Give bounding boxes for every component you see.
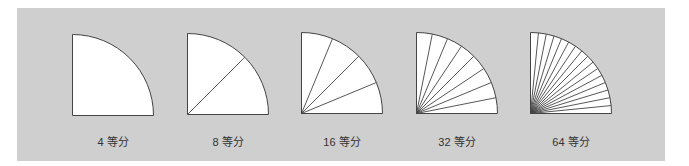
quarter-circle-64 <box>530 32 612 116</box>
quarter-circle-32-graphic <box>416 32 498 116</box>
quarter-circle-32 <box>416 32 498 116</box>
quarter-circle-16-graphic <box>301 32 383 116</box>
quarter-circle-4-graphic <box>72 34 154 118</box>
quarter-circle-8-graphic <box>187 33 269 117</box>
label-4: 4 等分 <box>53 133 173 149</box>
label-64: 64 等分 <box>511 133 631 149</box>
label-8: 8 等分 <box>168 133 288 149</box>
quarter-circle-4 <box>72 34 154 118</box>
quarter-circle-8 <box>187 33 269 117</box>
label-32: 32 等分 <box>397 133 517 149</box>
quarter-circle-16 <box>301 32 383 116</box>
label-16: 16 等分 <box>282 133 402 149</box>
quarter-circle-64-graphic <box>530 32 612 116</box>
